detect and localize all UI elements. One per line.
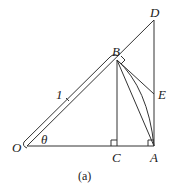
brace-OB [24,55,118,142]
label-A: A [149,150,158,165]
label-C: C [112,150,121,165]
angle-theta: θ [41,132,48,147]
right-angle-B [121,56,125,64]
segment-BA [117,60,154,146]
length-label: 1 [56,87,63,102]
label-B: B [112,44,120,59]
brace-end [23,142,27,148]
caption: (a) [78,169,91,183]
label-D: D [149,5,160,20]
label-E: E [157,87,166,102]
trig-diagram: O A C B D E θ 1 (a) [0,0,175,186]
label-O: O [12,140,22,155]
right-angle-C [111,140,117,146]
